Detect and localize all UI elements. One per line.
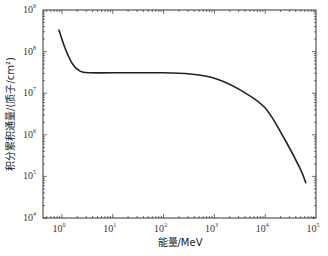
y-tick-label: 107 [23, 86, 36, 98]
x-tick-labels: 100101102103104105 [53, 222, 320, 234]
x-tick-label: 105 [307, 222, 320, 234]
chart: 100101102103104105 104105106107108109 能量… [0, 0, 328, 256]
major-ticks [43, 10, 316, 218]
y-tick-label: 108 [23, 45, 36, 57]
fluence-curve [59, 30, 306, 183]
y-tick-label: 104 [23, 211, 36, 223]
y-tick-labels: 104105106107108109 [23, 3, 36, 223]
x-tick-label: 102 [154, 222, 167, 234]
y-tick-label: 106 [23, 128, 36, 140]
x-tick-label: 104 [256, 222, 269, 234]
plot-frame [43, 10, 316, 218]
x-tick-label: 100 [53, 222, 66, 234]
y-tick-label: 109 [23, 3, 36, 15]
x-tick-label: 103 [205, 222, 218, 234]
y-tick-label: 105 [23, 169, 36, 181]
x-axis-title: 能量/MeV [158, 236, 203, 248]
minor-ticks [43, 10, 316, 218]
x-tick-label: 101 [103, 222, 116, 234]
y-axis-title: 积分累积通量/(质子/cm²) [5, 57, 16, 171]
